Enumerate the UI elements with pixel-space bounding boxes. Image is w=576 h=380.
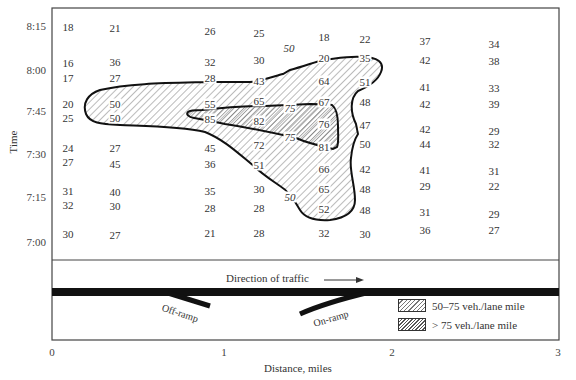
density-value: 52: [318, 204, 331, 215]
density-value: 30: [109, 201, 122, 212]
density-value: 32: [62, 200, 75, 211]
density-value: 42: [419, 99, 432, 110]
density-value: 28: [204, 73, 217, 84]
density-value: 55: [204, 99, 217, 110]
y-tick-label: 8:00: [26, 64, 46, 76]
density-value: 28: [253, 203, 266, 214]
density-value: 21: [204, 228, 217, 239]
density-value: 41: [419, 165, 432, 176]
density-value: 31: [488, 166, 501, 177]
density-value: 42: [419, 55, 432, 66]
density-value: 32: [204, 57, 217, 68]
density-value: 27: [62, 157, 75, 168]
density-value: 22: [359, 34, 372, 45]
density-value: 28: [253, 228, 266, 239]
density-value: 66: [318, 164, 331, 175]
density-value: 27: [488, 225, 501, 236]
contour-level-label: 75: [284, 132, 297, 143]
density-value: 36: [204, 159, 217, 170]
density-value: 18: [318, 32, 331, 43]
density-value: 33: [488, 83, 501, 94]
density-value: 30: [359, 229, 372, 240]
density-value: 82: [253, 116, 266, 127]
y-tick-label: 7:15: [26, 191, 46, 203]
density-value: 27: [109, 143, 122, 154]
density-value: 45: [109, 159, 122, 170]
density-value: 76: [318, 119, 331, 130]
density-value: 32: [318, 228, 331, 239]
y-tick-label: 7:45: [26, 105, 46, 117]
density-value: 25: [253, 28, 266, 39]
x-axis-title: Distance, miles: [264, 362, 332, 374]
density-value: 65: [318, 184, 331, 195]
x-tick-label: 3: [555, 346, 561, 358]
y-tick-label: 7:00: [26, 236, 46, 248]
legend-label: > 75 veh./lane mile: [432, 319, 517, 331]
density-value: 48: [359, 97, 372, 108]
hatch-swatch-dense-icon: [398, 318, 426, 331]
x-tick-label: 1: [221, 346, 227, 358]
density-value: 48: [359, 184, 372, 195]
density-value: 41: [419, 82, 432, 93]
density-value: 29: [419, 181, 432, 192]
density-value: 50: [359, 139, 372, 150]
density-value: 72: [253, 140, 266, 151]
density-value: 44: [419, 139, 432, 150]
y-axis-title: Time: [7, 131, 19, 154]
direction-arrow-head: [356, 277, 364, 283]
x-tick-label: 2: [389, 346, 395, 358]
density-value: 25: [62, 113, 75, 124]
density-value: 65: [253, 96, 266, 107]
contour-level-label: 50: [284, 192, 297, 203]
density-value: 48: [359, 205, 372, 216]
density-value: 40: [109, 187, 122, 198]
density-value: 30: [253, 55, 266, 66]
density-value: 27: [109, 230, 122, 241]
density-value: 67: [318, 97, 331, 108]
density-value: 51: [253, 160, 266, 171]
density-value: 47: [359, 120, 372, 131]
density-value: 30: [253, 184, 266, 195]
density-value: 31: [419, 207, 432, 218]
density-value: 35: [359, 53, 372, 64]
density-value: 37: [419, 36, 432, 47]
density-value: 42: [419, 124, 432, 135]
freeway-road: [52, 288, 559, 296]
hatch-swatch-light-icon: [398, 299, 426, 312]
density-value: 20: [62, 99, 75, 110]
x-tick-label: 0: [49, 346, 55, 358]
density-value: 81: [318, 142, 331, 153]
density-value: 42: [359, 164, 372, 175]
density-value: 85: [204, 114, 217, 125]
density-value: 28: [204, 203, 217, 214]
y-tick-label: 7:30: [26, 148, 46, 160]
density-value: 35: [204, 186, 217, 197]
density-value: 32: [488, 139, 501, 150]
density-value: 30: [62, 229, 75, 240]
contour-level-label: 50: [283, 43, 296, 54]
density-value: 20: [318, 53, 331, 64]
density-value: 45: [204, 143, 217, 154]
density-value: 29: [488, 126, 501, 137]
density-value: 16: [62, 58, 75, 69]
density-value: 43: [253, 76, 266, 87]
density-value: 29: [488, 209, 501, 220]
density-value: 50: [109, 99, 122, 110]
direction-of-traffic-label: Direction of traffic: [226, 272, 309, 284]
contour-level-label: 75: [284, 103, 297, 114]
legend-label: 50–75 veh./lane mile: [432, 300, 525, 312]
density-value: 17: [62, 73, 75, 84]
density-value: 51: [359, 77, 372, 88]
density-value: 38: [488, 56, 501, 67]
density-value: 22: [488, 181, 501, 192]
density-value: 34: [488, 39, 501, 50]
density-value: 26: [204, 26, 217, 37]
density-value: 21: [109, 23, 122, 34]
density-value: 18: [62, 22, 75, 33]
legend-item-over-75: > 75 veh./lane mile: [398, 318, 517, 331]
density-value: 24: [62, 143, 75, 154]
density-value: 31: [62, 186, 75, 197]
legend-item-50-75: 50–75 veh./lane mile: [398, 299, 525, 312]
density-value: 64: [318, 76, 331, 87]
density-value: 39: [488, 99, 501, 110]
